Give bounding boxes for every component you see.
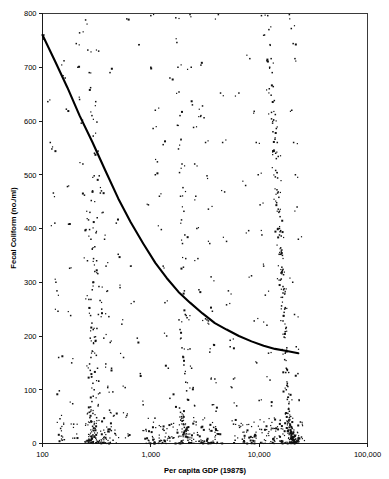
data-point xyxy=(155,174,157,176)
data-point xyxy=(279,423,281,425)
data-point xyxy=(181,64,182,65)
data-point xyxy=(289,18,290,19)
data-point xyxy=(270,425,271,426)
data-point xyxy=(183,293,185,295)
data-point xyxy=(181,416,183,418)
data-point xyxy=(150,67,152,69)
data-point xyxy=(98,404,99,405)
data-point xyxy=(96,442,97,443)
data-point xyxy=(292,436,294,438)
data-point xyxy=(160,193,161,194)
data-point xyxy=(167,438,168,439)
data-point xyxy=(260,442,261,443)
data-point xyxy=(182,206,183,207)
data-point xyxy=(281,278,283,280)
data-point xyxy=(193,443,194,444)
data-point xyxy=(236,405,238,407)
data-point xyxy=(84,441,85,442)
data-point xyxy=(198,116,199,117)
data-point xyxy=(107,262,108,263)
data-point xyxy=(109,443,110,444)
data-point xyxy=(178,148,180,150)
y-tick-label: 800 xyxy=(24,9,37,18)
data-point xyxy=(263,321,264,322)
data-point xyxy=(287,430,289,432)
data-point xyxy=(179,416,180,417)
data-point xyxy=(94,271,96,273)
data-point xyxy=(58,295,59,296)
data-point xyxy=(55,282,57,284)
data-point xyxy=(208,443,209,444)
data-point xyxy=(67,110,69,112)
data-point xyxy=(61,438,62,439)
data-point xyxy=(250,443,251,444)
data-point xyxy=(192,104,194,106)
data-point xyxy=(253,422,254,423)
data-point xyxy=(96,420,97,421)
data-point xyxy=(96,380,97,381)
data-point xyxy=(181,321,182,322)
data-point xyxy=(287,421,288,422)
data-point xyxy=(271,428,272,429)
data-point xyxy=(156,172,158,174)
data-point xyxy=(193,439,194,440)
data-point xyxy=(90,111,91,112)
data-point xyxy=(125,437,126,438)
data-point xyxy=(64,77,66,79)
data-point xyxy=(146,437,148,439)
data-point xyxy=(101,190,103,192)
data-point xyxy=(282,334,283,335)
data-point xyxy=(283,274,285,276)
y-tick-label: 0 xyxy=(32,439,36,448)
data-point xyxy=(214,378,216,380)
data-point xyxy=(268,92,269,93)
data-point xyxy=(224,191,226,193)
data-point xyxy=(63,424,64,425)
data-point xyxy=(294,58,296,60)
data-point xyxy=(96,417,98,419)
data-point xyxy=(95,133,96,134)
data-point xyxy=(143,430,144,431)
data-point xyxy=(200,64,202,66)
data-point xyxy=(183,416,185,418)
data-point xyxy=(287,383,289,385)
data-point xyxy=(126,415,128,417)
data-point xyxy=(116,413,118,415)
data-point xyxy=(269,88,271,90)
data-point xyxy=(183,364,185,366)
data-point xyxy=(273,443,274,444)
data-point xyxy=(277,208,279,210)
data-point xyxy=(94,432,95,433)
data-point xyxy=(285,372,287,374)
data-point xyxy=(286,442,287,443)
data-point xyxy=(88,72,90,74)
data-point xyxy=(92,227,93,228)
data-point xyxy=(284,430,286,432)
data-point xyxy=(261,429,263,431)
data-point xyxy=(285,388,286,389)
data-point xyxy=(105,313,106,314)
data-point xyxy=(273,199,274,200)
data-point xyxy=(186,390,188,392)
data-point xyxy=(85,423,86,424)
data-point xyxy=(193,417,194,418)
data-point xyxy=(272,442,273,443)
data-point xyxy=(270,441,271,442)
data-point xyxy=(94,371,96,373)
data-point xyxy=(196,228,198,230)
data-point xyxy=(257,318,258,319)
data-point xyxy=(90,239,92,241)
data-point xyxy=(94,246,96,248)
data-point xyxy=(205,142,207,144)
data-point xyxy=(275,114,277,116)
data-point xyxy=(298,399,299,400)
data-point xyxy=(258,400,260,402)
data-point xyxy=(111,68,113,70)
data-point xyxy=(110,412,111,413)
data-point xyxy=(261,15,263,17)
data-point xyxy=(176,93,177,94)
data-point xyxy=(215,439,216,440)
data-point xyxy=(182,356,184,358)
data-point xyxy=(111,426,112,427)
data-point xyxy=(200,115,202,117)
